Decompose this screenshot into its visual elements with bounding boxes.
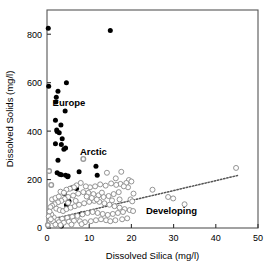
- data-point-open: [93, 184, 98, 189]
- data-point-open: [113, 218, 118, 223]
- data-point-open: [117, 197, 122, 202]
- data-point-open: [93, 218, 98, 223]
- data-point-open: [76, 191, 81, 196]
- data-point-open: [166, 194, 171, 199]
- data-point-filled: [57, 130, 62, 135]
- data-point-open: [80, 212, 85, 217]
- data-point-open: [125, 216, 130, 221]
- data-point-filled: [63, 109, 68, 114]
- data-point-filled: [61, 147, 66, 152]
- data-point-open: [95, 210, 100, 215]
- data-point-open: [121, 184, 126, 189]
- data-point-open: [120, 217, 125, 222]
- scatter-plot-figure: 010203040500200400600800Dissolved Silica…: [0, 0, 272, 265]
- x-axis-tick-label: 40: [211, 233, 221, 243]
- y-axis-title: Dissolved Solids (mg/l): [4, 71, 15, 168]
- data-point-open: [108, 219, 113, 224]
- data-point-open: [112, 204, 117, 209]
- data-point-open: [66, 200, 71, 205]
- data-point-open: [75, 213, 80, 218]
- data-point-open: [171, 196, 176, 201]
- data-point-gray: [49, 183, 54, 188]
- data-point-open: [61, 190, 66, 195]
- data-point-filled: [55, 158, 60, 163]
- data-point-open: [100, 211, 105, 216]
- data-point-open: [102, 201, 107, 206]
- data-point-filled: [53, 141, 58, 146]
- group-label-europe: Europe: [53, 97, 86, 108]
- data-point-open: [120, 210, 125, 215]
- data-point-open: [99, 217, 104, 222]
- data-point-open: [131, 191, 136, 196]
- data-point-filled: [46, 84, 51, 89]
- data-point-open: [234, 165, 239, 170]
- data-point-filled: [59, 172, 64, 177]
- y-axis-tick-label: 0: [37, 223, 42, 233]
- data-point-open: [83, 184, 88, 189]
- data-point-open: [109, 181, 114, 186]
- data-point-filled: [95, 173, 100, 178]
- data-point-open: [99, 190, 104, 195]
- x-axis-title: Dissolved Silica (mg/l): [106, 250, 199, 261]
- y-axis-tick-label: 800: [27, 30, 42, 40]
- data-point-filled: [46, 26, 51, 31]
- data-point-open: [113, 176, 118, 181]
- data-point-open: [85, 210, 90, 215]
- data-point-open: [109, 198, 114, 203]
- data-point-open: [106, 194, 111, 199]
- data-point-gray: [81, 157, 86, 162]
- data-point-open: [150, 187, 155, 192]
- data-point-open: [129, 179, 134, 184]
- data-point-filled: [93, 164, 98, 169]
- data-point-open: [58, 223, 63, 228]
- y-axis-tick-label: 200: [27, 175, 42, 185]
- data-point-open: [98, 182, 103, 187]
- data-point-open: [89, 195, 94, 200]
- data-point-filled: [60, 136, 65, 141]
- data-point-open: [56, 194, 61, 199]
- data-point-open: [114, 182, 119, 187]
- data-point-gray: [47, 169, 52, 174]
- data-point-open: [48, 217, 53, 222]
- data-point-open: [84, 194, 89, 199]
- x-axis-tick-label: 20: [126, 233, 136, 243]
- data-point-open: [79, 222, 84, 227]
- data-point-open: [116, 190, 121, 195]
- data-point-open: [90, 210, 95, 215]
- data-point-open: [119, 169, 124, 174]
- data-point-open: [73, 198, 78, 203]
- data-point-open: [131, 209, 136, 214]
- data-point-open: [103, 183, 108, 188]
- data-point-filled: [77, 169, 82, 174]
- group-label-arctic: Arctic: [80, 146, 107, 157]
- y-axis-tick-label: 400: [27, 127, 42, 137]
- data-point-open: [69, 222, 74, 227]
- data-point-open: [115, 210, 120, 215]
- data-point-filled: [108, 28, 113, 33]
- data-point-open: [88, 219, 93, 224]
- data-point-open: [105, 212, 110, 217]
- data-point-open: [104, 170, 109, 175]
- group-label-developing: Developing: [146, 205, 197, 216]
- y-axis-tick-label: 600: [27, 78, 42, 88]
- data-point-open: [94, 197, 99, 202]
- data-point-open: [117, 205, 122, 210]
- x-axis-tick-label: 30: [169, 233, 179, 243]
- x-axis-tick-label: 0: [44, 233, 49, 243]
- data-point-filled: [64, 80, 69, 85]
- data-point-open: [130, 199, 135, 204]
- data-point-open: [111, 192, 116, 197]
- x-axis-tick-label: 50: [253, 233, 263, 243]
- data-point-open: [110, 211, 115, 216]
- data-point-filled: [59, 142, 64, 147]
- data-point-open: [71, 193, 76, 198]
- data-point-filled: [58, 123, 63, 128]
- data-point-open: [53, 222, 58, 227]
- series-developing: [46, 165, 238, 227]
- chart-canvas: 010203040500200400600800Dissolved Silica…: [0, 0, 272, 265]
- data-point-filled: [53, 118, 58, 123]
- data-point-gray: [46, 223, 51, 228]
- data-point-open: [82, 201, 87, 206]
- data-point-open: [47, 209, 52, 214]
- data-point-filled: [55, 89, 60, 94]
